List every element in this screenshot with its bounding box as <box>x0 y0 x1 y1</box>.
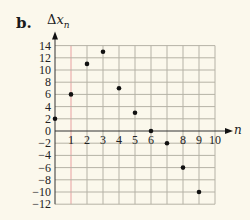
x-tick-label: 3 <box>100 133 106 147</box>
scatter-chart: 14121086420−2−4−6−8−10−121234568910 <box>0 0 250 220</box>
data-point <box>149 129 154 134</box>
y-axis-arrow-icon <box>52 32 58 40</box>
y-tick-label: −12 <box>32 197 51 211</box>
data-point <box>117 86 122 91</box>
data-point <box>165 141 170 146</box>
tick-labels: 14121086420−2−4−6−8−10−121234568910 <box>32 39 221 212</box>
data-point <box>133 110 138 115</box>
data-point <box>85 62 90 67</box>
x-tick-label: 2 <box>84 133 90 147</box>
x-tick-label: 5 <box>132 133 138 147</box>
data-point <box>197 190 202 195</box>
grid <box>55 46 215 205</box>
x-axis-arrow-icon <box>225 128 233 134</box>
data-point <box>69 92 74 97</box>
x-tick-label: 9 <box>196 133 202 147</box>
x-tick-label: 6 <box>148 133 154 147</box>
x-tick-label: 4 <box>116 133 122 147</box>
x-tick-label: 10 <box>209 133 221 147</box>
data-point <box>53 117 58 122</box>
x-tick-label: 1 <box>68 133 74 147</box>
data-points <box>53 49 202 194</box>
data-point <box>101 49 106 54</box>
x-tick-label: 8 <box>180 133 186 147</box>
data-point <box>181 165 186 170</box>
